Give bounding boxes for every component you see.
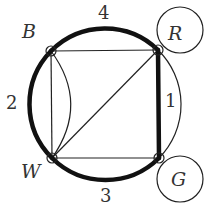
vertex-label-B: B (21, 20, 36, 42)
thick-edge-B-W-arc (29, 51, 52, 158)
graph-diagram: B R W G 4 2 1 3 (0, 0, 214, 209)
edge-label-2: 2 (6, 92, 17, 113)
thick-edge-B-R-arc (51, 28, 158, 51)
vertex-label-G: G (171, 168, 186, 190)
thick-edge-R-G (158, 50, 159, 158)
edge-label-4: 4 (98, 2, 109, 23)
edge-B-R (51, 50, 158, 51)
edge-label-1: 1 (165, 90, 176, 111)
edge-W-R-diagonal (52, 50, 158, 158)
thick-edge-W-G-arc (52, 158, 159, 180)
edge-B-W-straight (51, 51, 52, 158)
edge-label-3: 3 (100, 185, 111, 206)
vertex-label-R: R (167, 22, 182, 44)
vertex-label-W: W (21, 160, 42, 182)
